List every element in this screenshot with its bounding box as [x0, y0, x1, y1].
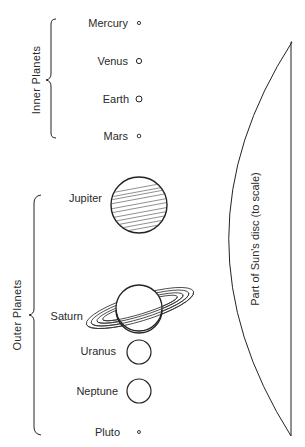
planet-label-earth: Earth	[103, 93, 129, 105]
planet-label-venus: Venus	[97, 55, 128, 67]
pluto-icon	[138, 431, 141, 434]
planet-label-mercury: Mercury	[88, 17, 128, 29]
uranus-icon	[127, 340, 151, 364]
planet-label-uranus: Uranus	[81, 345, 117, 357]
planet-label-saturn: Saturn	[51, 310, 83, 322]
planet-label-jupiter: Jupiter	[69, 192, 102, 204]
sun-disc-label: Part of Sun's disc (to scale)	[249, 172, 261, 306]
earth-icon	[136, 96, 142, 102]
solar-system-diagram: Inner Planets Outer Planets Mercury Venu…	[0, 0, 305, 447]
jupiter-icon	[105, 177, 175, 235]
planet-label-pluto: Pluto	[95, 426, 120, 438]
inner-planets-brace	[46, 19, 56, 138]
planet-label-mars: Mars	[104, 130, 129, 142]
neptune-icon	[127, 379, 151, 403]
mercury-icon	[137, 21, 140, 24]
inner-planets-label: Inner Planets	[30, 45, 42, 114]
venus-icon	[136, 58, 141, 63]
saturn-icon	[83, 279, 198, 337]
outer-planets-brace	[29, 195, 41, 435]
planet-label-neptune: Neptune	[76, 385, 118, 397]
mars-icon	[137, 134, 141, 138]
outer-planets-label: Outer Planets	[11, 279, 23, 350]
